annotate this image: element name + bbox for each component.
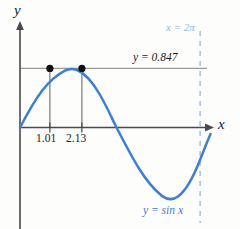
x-axis-arrowhead (205, 124, 214, 132)
point-2 (78, 65, 85, 72)
x-axis-label: x (218, 117, 225, 132)
curve-equation-label: y = sin x (143, 205, 183, 217)
x-tick-label-1.01: 1.01 (36, 133, 56, 145)
x-tick-label-2.13: 2.13 (66, 133, 86, 145)
vertical-line-label: x = 2π (166, 22, 195, 33)
y-axis-label: y (14, 3, 21, 18)
sine-graph-figure: y x 1.01 2.13 y = 0.847 y = sin x x = 2π (0, 0, 240, 229)
y-axis-arrowhead (16, 21, 24, 30)
point-1 (46, 65, 53, 72)
level-line-label: y = 0.847 (133, 52, 178, 64)
plot-canvas (0, 0, 240, 229)
